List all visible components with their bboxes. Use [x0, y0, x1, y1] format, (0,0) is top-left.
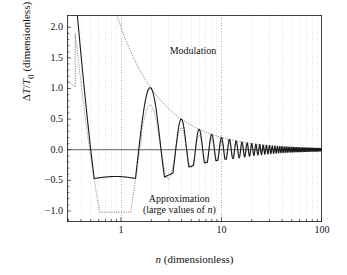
- y-tick-label: −1.0: [23, 206, 63, 216]
- y-tick-label: 0.0: [23, 145, 63, 155]
- y-tick-label: −0.5: [23, 175, 63, 185]
- figure: ΔT/T0 (dimensionless) 2.01.51.00.50.0−0.…: [0, 0, 347, 275]
- y-tick-label: 0.5: [23, 114, 63, 124]
- x-tick-label: 100: [315, 224, 330, 236]
- y-axis-ticks: 2.01.51.00.50.0−0.5−1.0: [21, 15, 63, 222]
- annotation-modulation-text: Modulation: [170, 45, 217, 56]
- annotation-approximation-line2: (large values of n): [143, 204, 216, 216]
- approx-line2-post: ): [212, 204, 215, 215]
- y-tick-label: 2.0: [23, 22, 63, 32]
- annotation-approximation-line1: Approximation: [143, 193, 216, 205]
- annotation-approximation: Approximation (large values of n): [143, 193, 216, 216]
- approx-line2-pre: (large values of: [143, 204, 208, 215]
- y-tick-label: 1.0: [23, 83, 63, 93]
- y-tick-label: 1.5: [23, 53, 63, 63]
- x-axis-ticks: 110100: [67, 224, 325, 240]
- x-axis-label: n (dimensionless): [67, 253, 322, 265]
- x-axis-label-text: n (dimensionless): [156, 253, 234, 265]
- x-tick-label: 10: [217, 224, 227, 236]
- x-tick-label: 1: [119, 224, 124, 236]
- annotation-modulation: Modulation: [170, 45, 217, 57]
